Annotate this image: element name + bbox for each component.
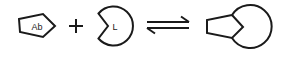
binding-equilibrium-diagram: Ab L: [0, 0, 285, 67]
antibody-shape: Ab: [19, 14, 55, 37]
ligand-label: L: [112, 22, 117, 32]
complex-shape: [207, 5, 272, 48]
equilibrium-arrows-icon: [147, 17, 189, 34]
complex-circle: [232, 5, 272, 48]
plus-sign: [69, 19, 83, 33]
complex-pentagon: [207, 15, 243, 38]
antibody-label: Ab: [31, 22, 42, 32]
ligand-shape: L: [99, 7, 133, 46]
